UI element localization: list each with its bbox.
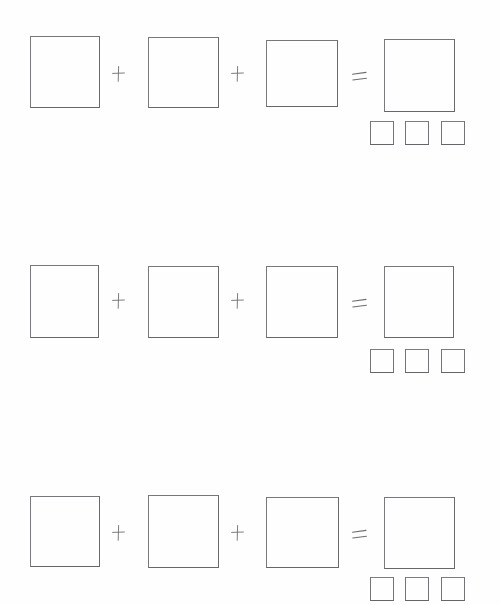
unit-square-2: [405, 577, 429, 601]
result-square: [384, 497, 455, 569]
unit-square-3: [441, 577, 465, 601]
equals-sign-icon: [350, 526, 370, 544]
operand-square-2: [148, 495, 219, 568]
plus-sign-icon: [230, 524, 246, 542]
equation-row-3: [0, 0, 500, 605]
operand-square-1: [30, 496, 100, 567]
operand-square-3: [266, 497, 339, 568]
plus-sign-icon: [111, 524, 127, 542]
unit-square-1: [370, 577, 394, 601]
worksheet-canvas: [0, 0, 500, 605]
